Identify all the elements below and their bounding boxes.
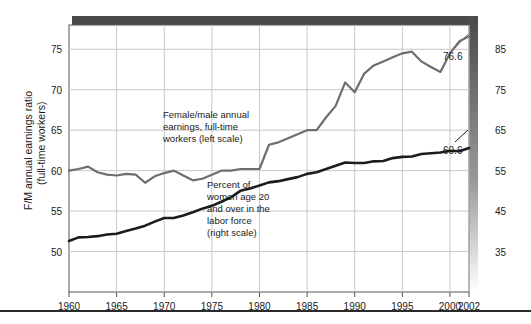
black-annotation-line-4: labor force: [207, 215, 252, 226]
right-tick-label: 65: [495, 125, 507, 136]
left-tick-label: 70: [51, 85, 63, 96]
gray-series-annotation: Female/male annual earnings, full-time w…: [162, 109, 249, 144]
gray-annotation-line-3: workers (left scale): [162, 133, 243, 144]
chart-figure: 1960196519701975198019851990199520002002…: [0, 0, 531, 324]
left-tick-label: 50: [51, 247, 63, 258]
right-tick-label: 55: [495, 166, 507, 177]
right-tick-labels: 354555657585: [495, 44, 507, 257]
left-axis-title-line2: (full-time workers): [35, 102, 47, 185]
black-annotation-line-5: (right scale): [207, 227, 257, 238]
left-tick-label: 75: [51, 44, 63, 55]
chart-canvas: 1960196519701975198019851990199520002002…: [0, 0, 531, 324]
right-tick-label: 85: [495, 44, 507, 55]
left-axis-title-line1: F/M annual earnings ratio: [22, 91, 34, 210]
left-tick-label: 65: [51, 125, 63, 136]
black-annotation-line-2: women age 20: [206, 191, 269, 202]
right-tick-label: 45: [495, 206, 507, 217]
top-shadow-bar: [72, 16, 478, 25]
bottom-divider-rule: [0, 310, 531, 312]
left-tick-labels: 505560657075: [51, 44, 63, 257]
right-tick-label: 35: [495, 247, 507, 258]
left-tick-label: 55: [51, 206, 63, 217]
gray-end-value: 76.6: [443, 51, 463, 62]
black-end-value: 60.6: [443, 145, 463, 156]
right-tick-label: 75: [495, 85, 507, 96]
left-tick-label: 60: [51, 166, 63, 177]
black-annotation-line-3: and over in the: [207, 203, 270, 214]
x-tick-labels: 1960196519701975198019851990199520002002: [58, 292, 481, 312]
right-shadow-bar: [469, 16, 478, 292]
gray-annotation-line-1: Female/male annual: [163, 109, 249, 120]
left-axis-title: F/M annual earnings ratio (full-time wor…: [22, 91, 47, 210]
black-annotation-line-1: Percent of: [207, 179, 251, 190]
gray-annotation-line-2: earnings, full-time: [163, 121, 238, 132]
